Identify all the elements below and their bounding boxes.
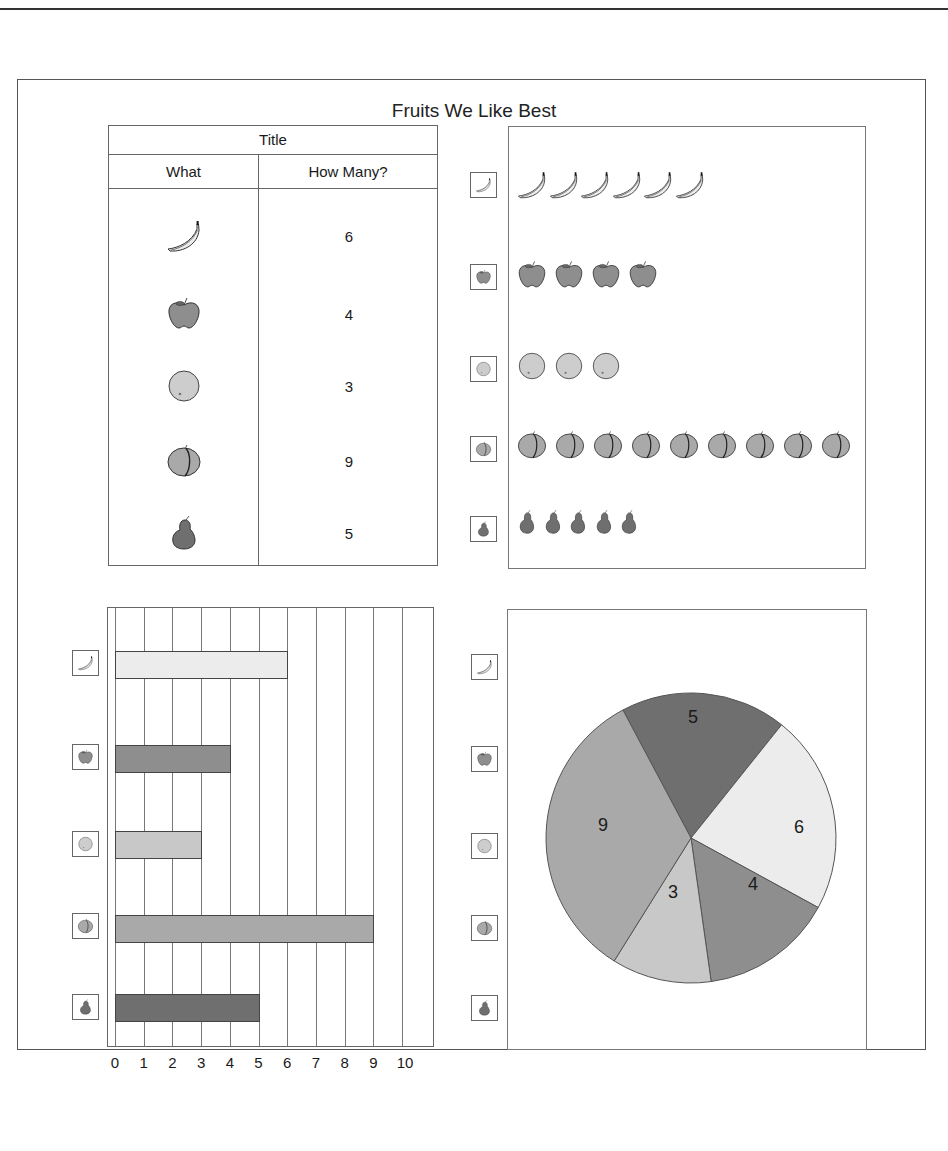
x-tick-label: 0 xyxy=(105,1054,125,1071)
pie-label-apple: 4 xyxy=(738,874,768,895)
peach-icon xyxy=(164,441,204,481)
banana-icon xyxy=(76,654,95,672)
peach-icon xyxy=(591,428,625,462)
banana-icon xyxy=(515,168,549,202)
banana-icon xyxy=(610,168,644,202)
banana-icon xyxy=(578,168,612,202)
pie-key-orange xyxy=(471,833,498,859)
x-tick-label: 9 xyxy=(363,1054,383,1071)
apple-icon xyxy=(515,258,549,292)
table-row: 6 xyxy=(109,206,437,276)
x-tick-label: 6 xyxy=(277,1054,297,1071)
pictograph-key-pear xyxy=(470,516,497,542)
pear-icon xyxy=(592,508,616,536)
x-tick-label: 4 xyxy=(220,1054,240,1071)
orange-icon xyxy=(474,360,493,378)
pear-icon xyxy=(515,508,539,536)
table-row: 3 xyxy=(109,356,437,426)
pie-key-banana xyxy=(471,654,498,680)
orange-icon xyxy=(475,837,494,855)
banana-icon xyxy=(673,168,707,202)
pear-icon xyxy=(617,508,641,536)
bar-chart xyxy=(107,607,434,1047)
x-tick-label: 8 xyxy=(335,1054,355,1071)
peach-icon xyxy=(475,919,494,937)
x-tick-label: 3 xyxy=(191,1054,211,1071)
table-row: 9 xyxy=(109,431,437,501)
bar-key-peach xyxy=(72,913,99,939)
banana-icon xyxy=(547,168,581,202)
tally-table: Title What How Many? 6 4 3 9 5 xyxy=(108,125,438,566)
gridline xyxy=(402,608,403,1046)
page-top-rule xyxy=(0,8,948,10)
orange-icon xyxy=(164,366,204,406)
pear-icon xyxy=(76,998,95,1016)
peach-icon xyxy=(819,428,853,462)
pie-key-pear xyxy=(471,995,498,1021)
apple-icon xyxy=(76,748,95,766)
peach-icon xyxy=(705,428,739,462)
pictograph-key-banana xyxy=(470,172,497,198)
banana-icon xyxy=(164,216,204,256)
pie-label-pear: 5 xyxy=(678,707,708,728)
peach-icon xyxy=(667,428,701,462)
peach-icon xyxy=(515,428,549,462)
orange-icon xyxy=(515,349,549,383)
x-tick-label: 2 xyxy=(162,1054,182,1071)
orange-icon xyxy=(589,349,623,383)
table-header-how-many: How Many? xyxy=(259,155,437,189)
pie-key-apple xyxy=(471,746,498,772)
bar-key-orange xyxy=(72,831,99,857)
x-tick-label: 5 xyxy=(249,1054,269,1071)
gridline xyxy=(373,608,374,1046)
table-row: 4 xyxy=(109,284,437,354)
table-title: Title xyxy=(109,126,437,155)
orange-icon xyxy=(76,835,95,853)
bar-apple xyxy=(115,745,231,773)
table-count: 5 xyxy=(259,525,439,542)
apple-icon xyxy=(626,258,660,292)
apple-icon xyxy=(552,258,586,292)
pictograph-key-peach xyxy=(470,436,497,462)
bar-banana xyxy=(115,651,288,679)
pear-icon xyxy=(164,513,204,553)
bar-orange xyxy=(115,831,202,859)
banana-icon xyxy=(475,658,494,676)
table-header-what: What xyxy=(109,155,258,189)
pear-icon xyxy=(566,508,590,536)
table-count: 4 xyxy=(259,306,439,323)
bar-pear xyxy=(115,994,260,1022)
peach-icon xyxy=(553,428,587,462)
pear-icon xyxy=(475,999,494,1017)
banana-icon xyxy=(641,168,675,202)
pictograph-key-apple xyxy=(470,264,497,290)
apple-icon xyxy=(164,294,204,334)
pie-label-peach: 9 xyxy=(588,815,618,836)
pie-label-orange: 3 xyxy=(658,882,688,903)
peach-icon xyxy=(629,428,663,462)
bar-key-pear xyxy=(72,994,99,1020)
apple-icon xyxy=(475,750,494,768)
pictograph-key-orange xyxy=(470,356,497,382)
table-count: 3 xyxy=(259,378,439,395)
pie-key-peach xyxy=(471,915,498,941)
pear-icon xyxy=(474,520,493,538)
bar-key-apple xyxy=(72,744,99,770)
gridline xyxy=(316,608,317,1046)
banana-icon xyxy=(474,176,493,194)
orange-icon xyxy=(552,349,586,383)
bar-peach xyxy=(115,915,374,943)
table-count: 9 xyxy=(259,453,439,470)
x-tick-label: 10 xyxy=(395,1054,415,1071)
peach-icon xyxy=(474,440,493,458)
x-tick-label: 7 xyxy=(306,1054,326,1071)
bar-key-banana xyxy=(72,650,99,676)
gridline xyxy=(345,608,346,1046)
page-title: Fruits We Like Best xyxy=(0,100,948,122)
peach-icon xyxy=(76,917,95,935)
apple-icon xyxy=(474,268,493,286)
pie-label-banana: 6 xyxy=(784,817,814,838)
apple-icon xyxy=(589,258,623,292)
peach-icon xyxy=(743,428,777,462)
peach-icon xyxy=(781,428,815,462)
